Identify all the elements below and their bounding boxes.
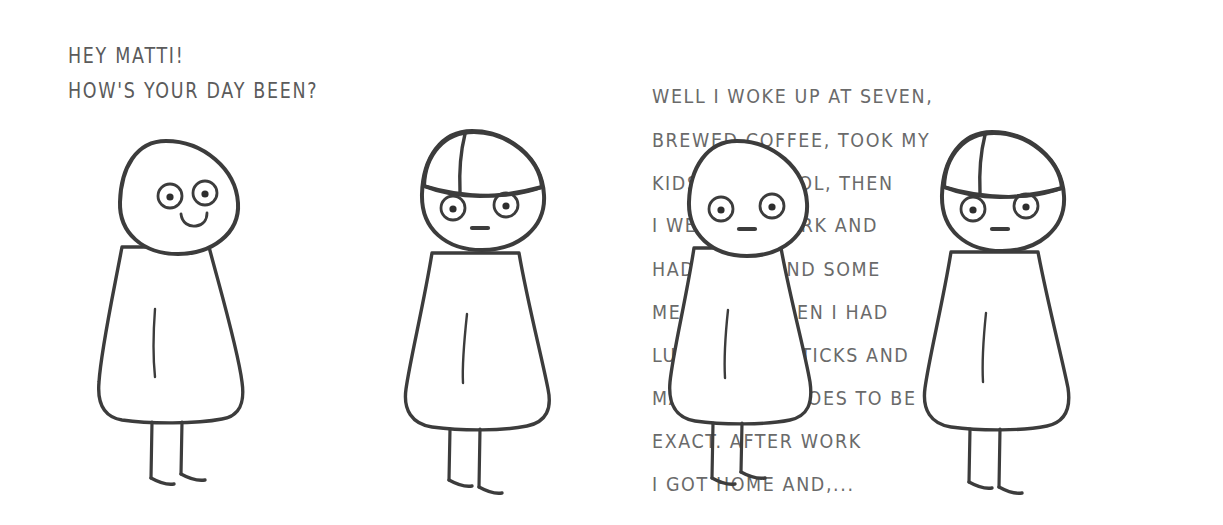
panel-2-body	[405, 253, 549, 430]
panel-3-foot-left	[712, 478, 735, 484]
panel-2-leg-left	[449, 429, 450, 480]
panel-2-pupil-left	[449, 205, 456, 212]
panel-3-foot-right	[741, 472, 765, 478]
panel-2-foot-right	[479, 487, 502, 493]
panel-4-leg-left	[969, 429, 970, 482]
panel-3-character	[620, 0, 870, 525]
panel-4-pupil-left	[969, 206, 976, 213]
panel-3-pupil-left	[717, 206, 724, 213]
panel-2-cap	[424, 132, 542, 196]
panel-2-foot-left	[449, 480, 472, 486]
panel-4-pupil-right	[1022, 203, 1029, 210]
panel-2-pupil-right	[502, 202, 509, 209]
panel-2-character	[320, 0, 620, 525]
comic-panel-3	[620, 0, 870, 525]
panel-3-head	[689, 141, 807, 256]
panel-3-leg-left	[712, 423, 713, 478]
panel-3-pupil-right	[768, 203, 775, 210]
comic-strip: HEY MATTI! HOW'S YOUR DAY BEEN? WELL I W…	[0, 0, 1223, 525]
panel-4-body	[924, 252, 1068, 430]
panel-4-character	[0, 0, 353, 525]
panel-4-foot-right	[999, 487, 1022, 493]
panel-3-leg-right	[741, 423, 742, 472]
comic-panel-2: WELL I WOKE UP AT SEVEN, BREWED COFFEE, …	[320, 0, 620, 525]
panel-4-cap	[944, 133, 1062, 197]
panel-3-body	[670, 248, 811, 424]
panel-2-leg-right	[479, 429, 480, 487]
panel-4-leg-right	[999, 429, 1000, 487]
panel-4-foot-left	[969, 482, 992, 488]
